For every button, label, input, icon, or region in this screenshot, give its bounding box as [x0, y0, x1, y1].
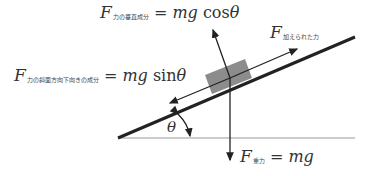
block — [205, 59, 252, 94]
normal-force-label: F力の垂直成分 = mg cosθ — [100, 4, 239, 21]
parallel-force-label: F力の斜面方向下向きの成分 = mg sinθ — [14, 67, 186, 84]
inclined-plane-diagram — [0, 0, 377, 176]
gravity-label: F重力 = mg — [240, 148, 314, 165]
incline-surface — [118, 37, 355, 138]
angle-theta-label: θ — [167, 120, 176, 135]
applied-force-label: F加えられた力 — [270, 24, 319, 41]
angle-arc — [178, 114, 190, 136]
